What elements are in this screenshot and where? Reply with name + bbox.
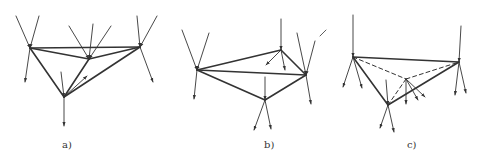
force-arrow-icon [343, 57, 353, 87]
force-arrow-icon [197, 33, 209, 70]
force-arrow-icon [182, 30, 197, 70]
panel-b-label: b) [264, 139, 274, 150]
truss-member [30, 48, 64, 97]
force-arrow-icon [69, 26, 89, 59]
panel-c-diagram [320, 15, 466, 132]
truss-member [388, 62, 459, 105]
force-arrow-icon [297, 33, 306, 75]
panel-c-label: c) [407, 139, 417, 150]
truss-member [353, 57, 459, 62]
force-arrow-icon [30, 16, 39, 48]
force-arrow-icon [140, 47, 153, 82]
truss-member [353, 57, 388, 105]
force-arrow-icon [140, 16, 157, 47]
force-arrow-icon [406, 79, 418, 100]
truss-member [281, 50, 306, 75]
truss-member [265, 75, 306, 100]
force-arrow-icon [137, 16, 140, 47]
stray-mark [320, 30, 326, 36]
panel-a-diagram [16, 16, 157, 126]
force-arrow-icon [306, 75, 311, 104]
panel-a-label: a) [62, 139, 72, 150]
hidden-truss-member [406, 62, 459, 79]
force-arrow-icon [194, 70, 197, 99]
force-arrow-icon [386, 80, 388, 105]
truss-diagram-figure [0, 0, 481, 162]
truss-member [30, 47, 140, 48]
truss-member [197, 70, 265, 100]
force-arrow-icon [459, 62, 466, 93]
panel-b-diagram [182, 19, 315, 130]
truss-member [197, 50, 281, 70]
force-arrow-icon [459, 26, 461, 62]
force-arrow-icon [406, 79, 425, 97]
hidden-truss-member [388, 79, 406, 105]
force-arrow-icon [265, 100, 271, 129]
truss-member [30, 48, 89, 59]
truss-member [197, 70, 306, 75]
force-arrow-icon [388, 105, 394, 132]
truss-member [89, 47, 140, 59]
truss-member [64, 47, 140, 97]
force-arrow-icon [254, 100, 265, 130]
force-arrow-icon [16, 16, 30, 48]
force-arrow-icon [25, 48, 30, 82]
force-arrow-icon [306, 41, 315, 75]
force-arrow-icon [353, 57, 362, 88]
force-arrow-icon [455, 62, 459, 95]
force-arrow-icon [380, 105, 388, 128]
